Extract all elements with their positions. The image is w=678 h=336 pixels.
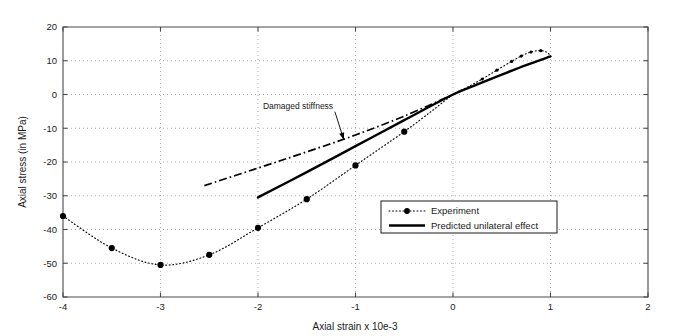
legend-entry-label: Predicted unilateral effect <box>431 220 538 231</box>
y-tick-label: -60 <box>43 291 57 302</box>
experiment-loop-point <box>495 69 498 72</box>
experiment-data-point <box>401 129 407 135</box>
x-tick-label: -4 <box>59 301 67 312</box>
experiment-data-point <box>304 196 310 202</box>
y-tick-label: -20 <box>43 156 57 167</box>
chart-figure: -4-3-2-1012-60-50-40-30-20-1001020 Damag… <box>0 0 678 336</box>
y-tick-label: -30 <box>43 190 57 201</box>
axial-stress-strain-plot: -4-3-2-1012-60-50-40-30-20-1001020 Damag… <box>0 0 678 336</box>
legend-swatch-marker <box>404 208 410 214</box>
x-tick-label: 0 <box>450 301 455 312</box>
experiment-data-point <box>157 262 163 268</box>
y-tick-label: -50 <box>43 258 57 269</box>
experiment-loop-point <box>510 60 513 63</box>
annotation-label-damaged-stiffness: Damaged stiffness <box>263 101 333 111</box>
y-axis-title: Axial stress (in MPa) <box>17 116 28 208</box>
experiment-loop-point <box>539 49 542 52</box>
y-tick-label: -10 <box>43 123 57 134</box>
x-tick-label: 2 <box>645 301 650 312</box>
y-tick-label: 10 <box>46 55 57 66</box>
figure-background <box>0 0 678 336</box>
experiment-data-point <box>255 225 261 231</box>
x-tick-label: 1 <box>548 301 553 312</box>
y-tick-label: -40 <box>43 224 57 235</box>
legend-entry-label: Experiment <box>431 205 479 216</box>
x-tick-label: -3 <box>156 301 164 312</box>
experiment-data-point <box>352 162 358 168</box>
experiment-data-point <box>109 245 115 251</box>
experiment-data-point <box>60 213 66 219</box>
y-tick-label: 20 <box>46 21 57 32</box>
y-tick-label: 0 <box>52 89 57 100</box>
x-tick-label: -1 <box>351 301 359 312</box>
experiment-loop-point <box>529 50 532 53</box>
x-tick-label: -2 <box>254 301 262 312</box>
x-axis-title: Axial strain x 10e-3 <box>312 321 397 332</box>
experiment-loop-point <box>481 77 484 80</box>
chart-legend: ExperimentPredicted unilateral effect <box>381 201 557 233</box>
experiment-loop-point <box>520 54 523 57</box>
experiment-data-point <box>206 252 212 258</box>
